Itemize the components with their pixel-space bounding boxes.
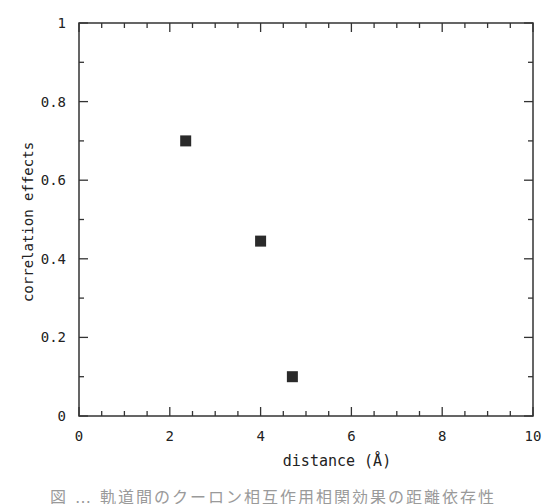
data-point-marker bbox=[180, 135, 191, 146]
data-point-marker bbox=[287, 371, 298, 382]
figure-caption: 図 … 軌道間のクーロン相互作用相関効果の距離依存性 bbox=[50, 484, 520, 504]
plot-frame bbox=[79, 23, 533, 416]
svg-text:10: 10 bbox=[525, 428, 542, 444]
svg-text:0: 0 bbox=[58, 408, 66, 424]
axis-ticks bbox=[79, 23, 533, 416]
x-axis-label: distance (Å) bbox=[283, 451, 391, 470]
data-points bbox=[180, 135, 298, 382]
x-tick-labels: 0246810 bbox=[75, 428, 542, 444]
svg-text:2: 2 bbox=[166, 428, 174, 444]
svg-text:6: 6 bbox=[347, 428, 355, 444]
svg-text:0.8: 0.8 bbox=[41, 94, 66, 110]
svg-text:0.2: 0.2 bbox=[41, 329, 66, 345]
svg-text:8: 8 bbox=[438, 428, 446, 444]
svg-text:0.6: 0.6 bbox=[41, 172, 66, 188]
svg-text:1: 1 bbox=[58, 15, 66, 31]
data-point-marker bbox=[255, 236, 266, 247]
y-axis-label: correlation effects bbox=[20, 142, 36, 302]
svg-text:0: 0 bbox=[75, 428, 83, 444]
svg-text:4: 4 bbox=[256, 428, 264, 444]
y-tick-labels: 00.20.40.60.81 bbox=[41, 15, 66, 424]
svg-text:0.4: 0.4 bbox=[41, 251, 66, 267]
